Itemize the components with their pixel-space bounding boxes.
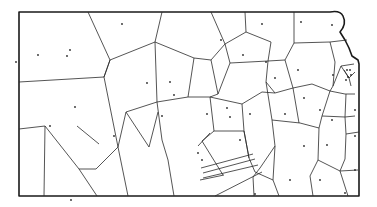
site-point — [344, 192, 346, 194]
site-point — [331, 119, 333, 121]
site-point — [15, 61, 17, 63]
site-point — [220, 39, 222, 41]
site-point — [249, 113, 251, 115]
site-point — [354, 109, 356, 111]
voronoi-edge — [322, 116, 355, 117]
voronoi-edge — [285, 12, 294, 60]
site-point — [121, 23, 123, 25]
voronoi-edges — [19, 12, 359, 196]
site-point — [347, 76, 349, 78]
site-point — [289, 179, 291, 181]
voronoi-edge — [203, 159, 255, 173]
voronoi-edge — [318, 128, 358, 171]
site-point — [113, 135, 115, 137]
voronoi-edge — [19, 12, 118, 169]
site-point — [146, 82, 148, 84]
voronoi-edge — [344, 70, 355, 78]
site-point — [345, 79, 347, 81]
voronoi-edge — [246, 32, 271, 61]
site-point — [66, 55, 68, 57]
voronoi-edge — [273, 180, 279, 196]
voronoi-edge — [19, 77, 104, 82]
voronoi-edge — [285, 42, 335, 91]
site-point — [201, 159, 203, 161]
site-point — [346, 69, 348, 71]
site-point — [265, 61, 267, 63]
site-point — [197, 152, 199, 154]
voronoi-edge — [294, 40, 347, 43]
site-point — [274, 77, 276, 79]
site-point — [70, 199, 72, 201]
site-point — [242, 54, 244, 56]
voronoi-edge — [230, 60, 285, 63]
voronoi-map-diagram — [0, 0, 377, 207]
voronoi-edge — [155, 42, 194, 102]
voronoi-edge — [157, 102, 168, 160]
voronoi-edge — [340, 132, 359, 171]
voronoi-edge — [341, 66, 351, 86]
site-point — [169, 81, 171, 83]
voronoi-edge — [345, 94, 346, 117]
site-point — [303, 97, 305, 99]
site-point — [326, 144, 328, 146]
site-point — [319, 179, 321, 181]
voronoi-sites — [15, 21, 356, 201]
voronoi-edge — [118, 42, 157, 147]
voronoi-edge — [293, 88, 299, 123]
voronoi-edge — [110, 12, 162, 60]
site-point — [254, 193, 256, 195]
voronoi-edge — [201, 154, 253, 168]
voronoi-edge — [77, 126, 99, 144]
voronoi-edge — [340, 171, 348, 196]
site-point — [69, 49, 71, 51]
site-point — [354, 169, 356, 171]
voronoi-edge — [210, 60, 218, 97]
site-point — [332, 74, 334, 76]
site-point — [354, 135, 356, 137]
site-point — [161, 115, 163, 117]
voronoi-edge — [104, 60, 110, 77]
site-point — [229, 116, 231, 118]
voronoi-edge — [310, 160, 318, 196]
site-point — [331, 24, 333, 26]
voronoi-edge — [253, 120, 275, 196]
site-point — [261, 23, 263, 25]
voronoi-edge — [244, 131, 249, 158]
site-point — [239, 139, 241, 141]
voronoi-edge — [266, 82, 319, 128]
site-point — [300, 21, 302, 23]
site-point — [350, 74, 352, 76]
site-point — [173, 94, 175, 96]
site-point — [297, 69, 299, 71]
voronoi-edge — [194, 12, 225, 60]
voronoi-edge — [345, 117, 346, 134]
voronoi-edge — [210, 97, 244, 131]
voronoi-edge — [118, 147, 128, 196]
site-point — [49, 125, 51, 127]
site-point — [74, 106, 76, 108]
site-point — [37, 54, 39, 56]
site-point — [319, 109, 321, 111]
site-point — [206, 113, 208, 115]
site-point — [226, 107, 228, 109]
voronoi-edge — [330, 91, 355, 94]
voronoi-edge — [203, 165, 258, 178]
site-point — [303, 145, 305, 147]
state-outline-border — [19, 12, 359, 197]
site-point — [284, 113, 286, 115]
voronoi-edge — [44, 126, 45, 196]
voronoi-edge — [126, 112, 158, 147]
voronoi-edge — [168, 160, 174, 196]
voronoi-edge — [214, 131, 249, 158]
voronoi-edge — [79, 169, 97, 196]
voronoi-edge — [225, 12, 246, 44]
voronoi-edge — [218, 44, 230, 94]
site-point — [349, 69, 351, 71]
